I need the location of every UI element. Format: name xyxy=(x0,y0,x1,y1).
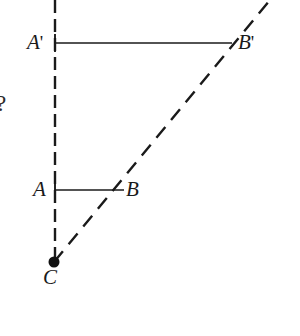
geometry-figure: A' B' A B C ? xyxy=(0,0,300,336)
label-b-prime: B' xyxy=(238,32,254,53)
label-b-prime-letter: B xyxy=(238,30,251,54)
label-b-letter: B xyxy=(126,177,139,201)
label-a-prime: A' xyxy=(27,32,43,53)
label-b-prime-mark: ' xyxy=(251,32,254,53)
label-a: A xyxy=(33,179,46,200)
edge-cutoff-glyph: ? xyxy=(0,92,6,115)
label-c: C xyxy=(43,267,57,288)
label-a-letter: A xyxy=(33,177,46,201)
label-c-letter: C xyxy=(43,265,57,289)
label-b: B xyxy=(126,179,139,200)
label-a-prime-mark: ' xyxy=(40,32,43,53)
label-a-prime-letter: A xyxy=(27,30,40,54)
